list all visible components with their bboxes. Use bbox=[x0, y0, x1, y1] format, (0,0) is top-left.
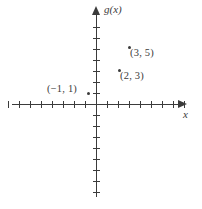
y-axis-tick bbox=[93, 126, 100, 127]
x-axis-tick bbox=[151, 101, 152, 108]
point-2-3-label: (2, 3) bbox=[120, 70, 144, 81]
y-axis-label: g(x) bbox=[104, 3, 122, 15]
x-axis-tick bbox=[140, 101, 141, 108]
y-axis-tick bbox=[93, 137, 100, 138]
x-axis-tick bbox=[85, 101, 86, 108]
y-axis-tick bbox=[93, 115, 100, 116]
y-axis-tick bbox=[93, 93, 100, 94]
x-axis-tick bbox=[30, 101, 31, 108]
point-neg1-1-label: (−1, 1) bbox=[47, 83, 77, 94]
x-axis-tick bbox=[162, 101, 163, 108]
point-3-5-label: (3, 5) bbox=[130, 47, 154, 58]
y-axis-tick bbox=[93, 71, 100, 72]
x-axis-tick bbox=[118, 101, 119, 108]
point-neg1-1 bbox=[87, 92, 90, 95]
y-axis-tick bbox=[93, 27, 100, 28]
y-axis-tick bbox=[93, 148, 100, 149]
x-axis-tick bbox=[184, 101, 185, 108]
x-axis-tick bbox=[74, 101, 75, 108]
x-axis-tick bbox=[8, 101, 9, 108]
x-axis-tick bbox=[107, 101, 108, 108]
y-axis-tick bbox=[93, 181, 100, 182]
y-axis-tick bbox=[93, 49, 100, 50]
y-axis-tick bbox=[93, 38, 100, 39]
x-axis-tick bbox=[19, 101, 20, 108]
y-axis-tick bbox=[93, 60, 100, 61]
y-axis-arrowhead-icon bbox=[92, 6, 100, 15]
y-axis-tick bbox=[93, 170, 100, 171]
x-axis-tick bbox=[173, 101, 174, 108]
y-axis-tick bbox=[93, 159, 100, 160]
x-axis-tick bbox=[52, 101, 53, 108]
x-axis-tick bbox=[63, 101, 64, 108]
x-axis-tick bbox=[129, 101, 130, 108]
y-axis-tick bbox=[93, 192, 100, 193]
y-axis-tick bbox=[93, 82, 100, 83]
x-axis-label: x bbox=[183, 108, 188, 120]
x-axis-tick bbox=[41, 101, 42, 108]
x-axis-arrowhead-icon bbox=[178, 100, 187, 108]
coordinate-plane-figure: x g(x) (−1, 1)(2, 3)(3, 5) bbox=[0, 0, 202, 209]
